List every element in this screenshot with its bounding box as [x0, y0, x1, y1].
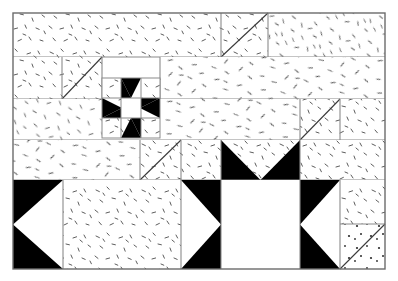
row-4-star-points [13, 140, 385, 180]
patch-r4-half-square-triangle[interactable] [140, 140, 181, 180]
small-sawtooth-star[interactable] [102, 78, 160, 138]
patch-r2-half-square-triangle[interactable] [62, 57, 102, 99]
quilt-block-diagram [0, 0, 398, 281]
row-3-star-middle [13, 99, 385, 140]
patch-r4-right-print[interactable] [300, 140, 385, 180]
patch-r4-star-point-top[interactable] [221, 140, 300, 180]
patch-r2-corner-small[interactable] [13, 57, 62, 99]
patch-top-long-print[interactable] [13, 13, 221, 57]
patch-r5-star-point-left-inner[interactable] [181, 180, 221, 269]
quilt-diagram-stage: Quilt Block Layout Diagram patchwork-qui… [0, 0, 398, 281]
patch-r3-right-print[interactable] [340, 99, 385, 140]
patch-r5-corner-hst[interactable] [340, 224, 385, 269]
patch-r4-left-print[interactable] [13, 140, 140, 180]
patch-r5-center-left-print[interactable] [63, 180, 181, 269]
row-1-top-sashing [13, 13, 385, 57]
patch-r5-star-center-square[interactable] [221, 180, 300, 269]
patch-r5-star-point-right-inner[interactable] [300, 180, 340, 269]
row-5-big-star [13, 180, 385, 269]
patch-r5-corner-print[interactable] [340, 180, 385, 224]
patch-r5-left-star-point[interactable] [13, 180, 63, 269]
patch-r3-left-print[interactable] [13, 99, 102, 140]
patch-r2-wide-print[interactable] [160, 57, 385, 99]
small-star-center [121, 98, 141, 118]
patch-r3-mid-print[interactable] [160, 99, 300, 140]
row-2-upper [13, 57, 385, 99]
patch-r3-half-square-triangle[interactable] [300, 99, 340, 140]
patch-top-half-square-triangle[interactable] [221, 13, 268, 57]
patch-top-right-print[interactable] [268, 13, 385, 57]
patch-r4-plain-left[interactable] [181, 140, 221, 180]
